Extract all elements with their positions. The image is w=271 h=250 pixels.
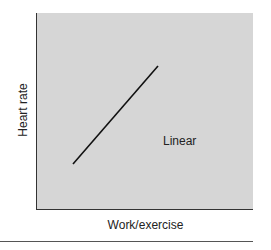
linear-line bbox=[0, 0, 271, 250]
divider bbox=[0, 241, 253, 242]
y-axis-label: Heart rate bbox=[16, 83, 30, 136]
linear-annotation: Linear bbox=[163, 134, 196, 148]
x-axis-label: Work/exercise bbox=[0, 218, 271, 232]
